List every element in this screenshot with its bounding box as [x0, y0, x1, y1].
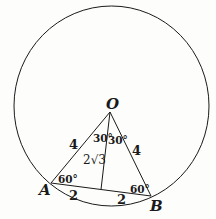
circle-triangle-diagram: O A B 4 4 2 2 2√3 30° 30° 60° 60°: [0, 0, 216, 219]
side-OA-label: 4: [69, 137, 78, 152]
segment-mid-B-label: 2: [117, 192, 126, 207]
altitude-label: 2√3: [83, 153, 106, 167]
point-B-label: B: [149, 197, 163, 215]
angle-O-right-label: 30°: [108, 134, 128, 146]
angle-A-label: 60°: [58, 173, 78, 185]
side-OB-label: 4: [132, 143, 141, 158]
point-A-label: A: [37, 181, 51, 199]
angle-B-label: 60°: [130, 183, 150, 195]
segment-A-mid-label: 2: [69, 188, 78, 203]
point-O-label: O: [106, 95, 119, 113]
altitude: [101, 112, 110, 190]
diagram-canvas: O A B 4 4 2 2 2√3 30° 30° 60° 60°: [0, 0, 216, 219]
